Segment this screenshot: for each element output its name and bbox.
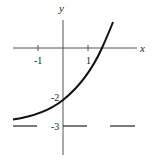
y-axis-label: y (58, 2, 64, 14)
y-tick-label-neg2: -2 (51, 92, 59, 103)
x-tick-label-neg1: -1 (34, 55, 42, 66)
x-axis-label: x (139, 42, 145, 54)
graph: y x -1 1 -2 -3 (0, 0, 154, 158)
x-tick-label-1: 1 (86, 55, 91, 66)
y-tick-label-neg3: -3 (51, 121, 59, 132)
